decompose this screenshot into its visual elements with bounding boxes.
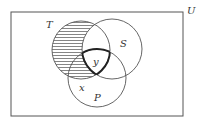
universe-label: U <box>187 5 196 16</box>
venn-diagram: U T S P x y <box>0 0 202 124</box>
region-x-label: x <box>79 82 85 93</box>
set-t-label: T <box>46 19 54 30</box>
set-p-label: P <box>93 92 101 103</box>
set-s-label: S <box>120 38 127 49</box>
region-y-label: y <box>92 56 99 67</box>
